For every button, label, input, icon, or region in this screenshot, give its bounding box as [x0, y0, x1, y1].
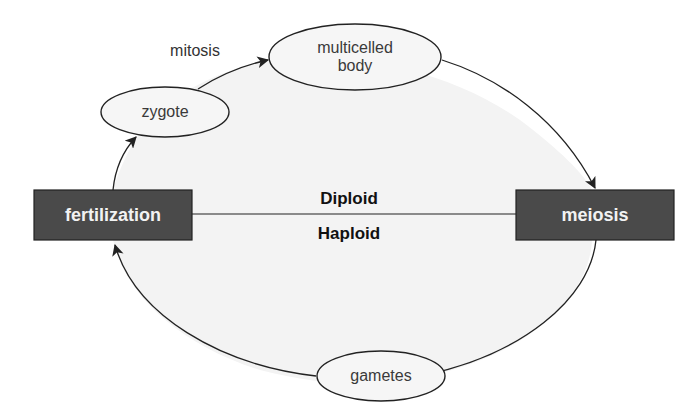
- fertilization-label: fertilization: [65, 205, 161, 225]
- multicelled-body-label: multicelled body: [317, 39, 393, 75]
- zygote-label: zygote: [141, 103, 188, 121]
- diploid-label: Diploid: [320, 189, 378, 208]
- meiosis-label: meiosis: [561, 205, 628, 225]
- mitosis-label: mitosis: [170, 42, 220, 60]
- multicelled-label-line2: body: [317, 57, 393, 75]
- gametes-label: gametes: [350, 367, 411, 385]
- haploid-label: Haploid: [318, 224, 380, 243]
- multicelled-label-line1: multicelled: [317, 39, 393, 57]
